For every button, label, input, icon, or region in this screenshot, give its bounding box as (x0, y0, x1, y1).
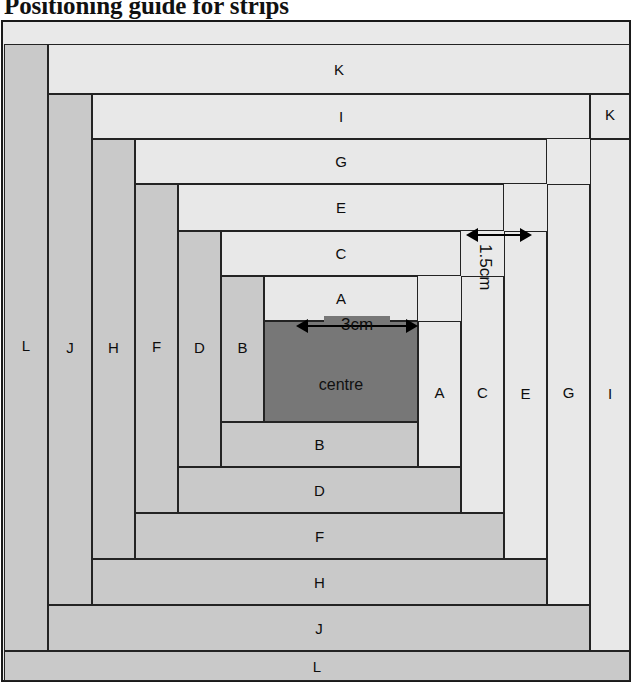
strip-label: F (152, 339, 161, 354)
strip-K-right: K (590, 94, 630, 139)
strip-D-left: D (178, 231, 221, 467)
strip-centre: centre (264, 321, 418, 422)
strip-label: B (314, 437, 324, 452)
strip-label: D (314, 483, 325, 498)
strip-A-right: A (418, 321, 461, 467)
strip-label: D (194, 340, 205, 355)
strip-H-left: H (92, 139, 135, 559)
strip-B-bottom: B (221, 422, 418, 467)
strip-label: A (336, 291, 346, 306)
strip-label: J (315, 621, 323, 636)
strip-label: C (477, 385, 488, 400)
strip-label: G (335, 154, 347, 169)
strip-label: H (108, 340, 119, 355)
positioning-guide-diagram: KIGECABDFHJLLJHFDBACEGIKcentre 3cm 1.5cm (0, 19, 634, 685)
strip-label: K (605, 107, 615, 122)
strip-label: L (313, 659, 321, 674)
strip-C-top: C (221, 231, 461, 276)
strip-D-bottom: D (178, 467, 461, 513)
strip-H-bottom: H (92, 559, 547, 605)
strip-I-right: I (590, 139, 630, 651)
strip-E-right: E (504, 231, 547, 559)
strip-C-right: C (461, 276, 504, 513)
strip-label: C (336, 246, 347, 261)
strip-G-right: G (547, 184, 590, 605)
strip-G-top: G (135, 139, 547, 184)
strip-J-bottom: J (48, 605, 590, 651)
strip-label: E (336, 200, 346, 215)
strip-L-left: L (4, 44, 48, 651)
strip-J-left: J (48, 94, 92, 605)
strip-A-top: A (264, 276, 418, 321)
strip-F-left: F (135, 184, 178, 513)
strip-label: B (237, 340, 247, 355)
strip-label: I (339, 109, 343, 124)
strip-label: E (520, 386, 530, 401)
strip-I-top: I (92, 94, 590, 139)
strip-label: H (314, 575, 325, 590)
page-title: Positioning guide for strips (4, 0, 624, 19)
strip-E-top: E (178, 184, 504, 231)
strip-label: I (608, 386, 612, 401)
strip-label: L (22, 338, 30, 353)
strip-B-left: B (221, 276, 264, 422)
strip-label: centre (319, 377, 363, 393)
strip-K-top: K (48, 44, 630, 94)
strip-label: K (334, 62, 344, 77)
strip-label: A (434, 385, 444, 400)
strip-label: F (315, 529, 324, 544)
strip-F-bottom: F (135, 513, 504, 559)
strip-L-bottom: L (4, 651, 630, 681)
strip-label: G (563, 385, 575, 400)
strip-label: J (66, 340, 74, 355)
